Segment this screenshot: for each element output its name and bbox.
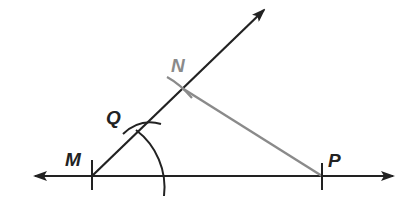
segment-np [182, 88, 322, 176]
label-m: M [65, 149, 82, 170]
compass-arc-n [167, 77, 192, 98]
label-n: N [171, 55, 186, 76]
label-q: Q [106, 107, 121, 128]
geometry-diagram: M Q N P [0, 0, 419, 222]
label-p: P [328, 150, 341, 171]
ray-mn [92, 10, 264, 176]
compass-arc-m [136, 130, 165, 196]
